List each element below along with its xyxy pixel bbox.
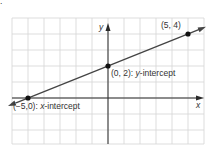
point-label: (0, 2): y-intercept (111, 68, 176, 78)
data-point (105, 63, 110, 68)
y-axis-label: y (98, 22, 104, 32)
data-point (25, 95, 30, 100)
line-arrow-right-icon (198, 27, 206, 32)
point-label: (5, 4) (161, 20, 181, 30)
point-label: (−5,0): x-intercept (13, 101, 80, 111)
x-axis-label: x (195, 100, 201, 110)
data-point (185, 31, 190, 36)
corner-mark: . (0, 0, 2, 6)
y-axis: y (98, 22, 111, 144)
coordinate-plane-chart: . x y (−5,0): x-intercept(0, 2): y-inter… (0, 0, 215, 156)
y-axis-arrow-icon (106, 23, 111, 31)
